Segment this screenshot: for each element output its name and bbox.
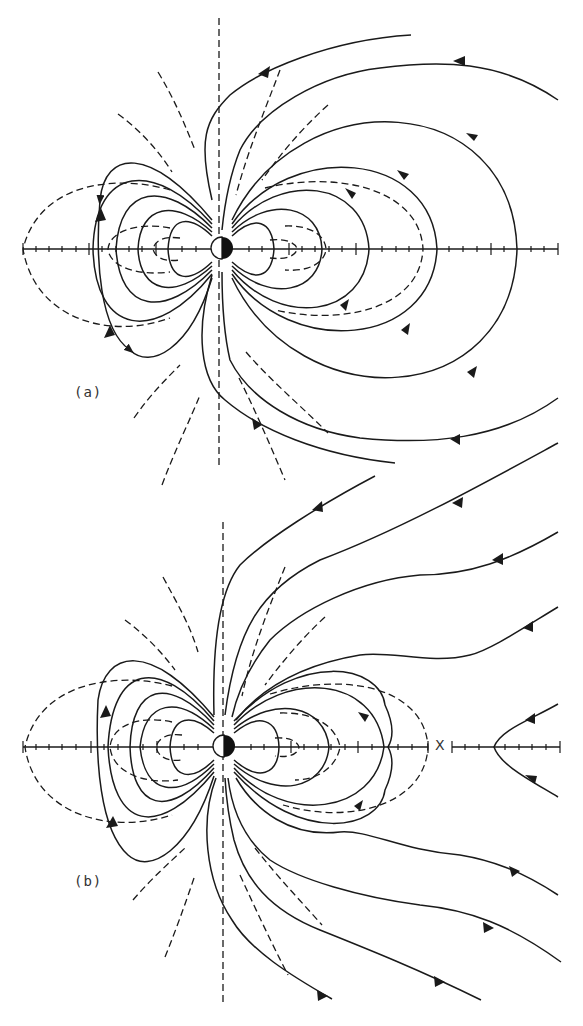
neutral-point-x-marker: X	[435, 737, 445, 753]
panel-a	[23, 18, 558, 485]
panel-a-label: (a)	[74, 384, 102, 400]
planet-b	[213, 735, 235, 757]
panel-b-ticks	[23, 741, 560, 753]
dipole-field-figure: (a) (b) X	[0, 0, 583, 1026]
planet-a	[211, 237, 233, 259]
panel-b-label: (b)	[74, 873, 102, 889]
panel-b	[23, 443, 561, 1005]
